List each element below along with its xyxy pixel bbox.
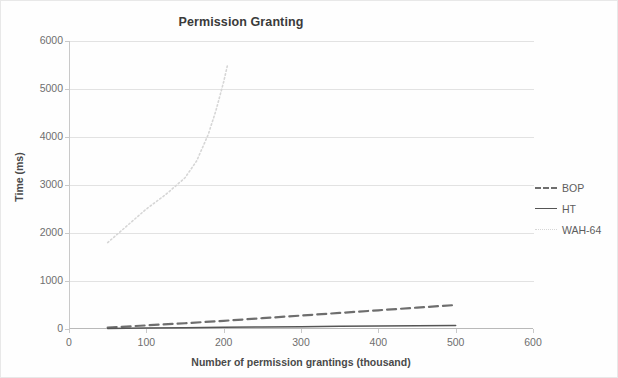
- y-axis-tick-label: 2000: [17, 226, 63, 238]
- y-axis-tick-label: 5000: [17, 82, 63, 94]
- y-axis-tick-label: 1000: [17, 274, 63, 286]
- x-axis-title: Number of permission grantings (thousand…: [69, 356, 533, 368]
- series-line-bop: [108, 305, 456, 328]
- x-axis-tick-label: 300: [281, 336, 321, 348]
- series-line-wah-64: [108, 65, 228, 243]
- y-axis-tick-label: 6000: [17, 34, 63, 46]
- chart-title: Permission Granting: [1, 15, 481, 29]
- series-layer: [69, 41, 533, 329]
- x-axis-tick-mark: [301, 329, 302, 333]
- legend-label: HT: [562, 203, 576, 215]
- x-axis-tick-mark: [224, 329, 225, 333]
- x-axis-tick-label: 100: [126, 336, 166, 348]
- chart-legend: BOPHTWAH-64: [535, 177, 615, 240]
- series-line-ht: [108, 325, 456, 328]
- x-axis-tick-mark: [378, 329, 379, 333]
- legend-swatch-icon: [535, 225, 557, 235]
- x-axis-tick-mark: [69, 329, 70, 333]
- x-axis-tick-label: 400: [358, 336, 398, 348]
- legend-entry-bop[interactable]: BOP: [535, 177, 615, 198]
- x-axis-tick-label: 0: [49, 336, 89, 348]
- legend-label: WAH-64: [562, 224, 601, 236]
- y-axis-title: Time (ms): [13, 137, 25, 217]
- x-axis-tick-mark: [533, 329, 534, 333]
- legend-swatch-icon: [535, 183, 557, 193]
- y-axis-tick-label: 0: [17, 322, 63, 334]
- legend-label: BOP: [562, 182, 584, 194]
- x-axis-tick-mark: [146, 329, 147, 333]
- x-axis-tick-label: 500: [436, 336, 476, 348]
- chart-figure: Permission Granting 01000200030004000500…: [0, 0, 618, 378]
- x-axis-tick-label: 600: [513, 336, 553, 348]
- legend-entry-wah-64[interactable]: WAH-64: [535, 219, 615, 240]
- x-axis-tick-mark: [456, 329, 457, 333]
- x-axis-tick-label: 200: [204, 336, 244, 348]
- legend-swatch-icon: [535, 204, 557, 214]
- legend-entry-ht[interactable]: HT: [535, 198, 615, 219]
